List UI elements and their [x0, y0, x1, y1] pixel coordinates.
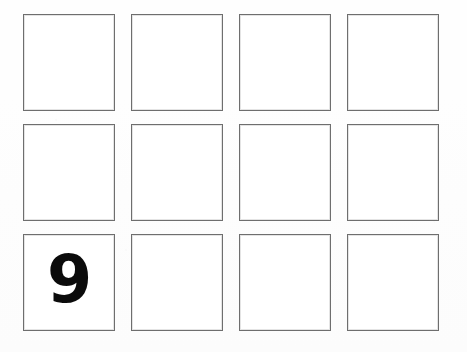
grid-cell-r1c3[interactable]: [239, 14, 331, 111]
grid-cell-r1c1[interactable]: [23, 14, 115, 111]
grid-cell-r2c3[interactable]: [239, 124, 331, 221]
grid-cell-r3c2[interactable]: [131, 234, 223, 331]
worksheet-page: 9: [0, 0, 467, 352]
grid-cell-r1c2[interactable]: [131, 14, 223, 111]
grid-cell-r1c4[interactable]: [347, 14, 439, 111]
grid-cell-r3c4[interactable]: [347, 234, 439, 331]
grid-cell-r3c3[interactable]: [239, 234, 331, 331]
grid-cell-r2c1[interactable]: [23, 124, 115, 221]
number-grid: 9: [23, 14, 439, 331]
grid-cell-r3c1[interactable]: 9: [23, 234, 115, 331]
grid-cell-r2c4[interactable]: [347, 124, 439, 221]
grid-cell-value: 9: [47, 247, 91, 312]
grid-cell-r2c2[interactable]: [131, 124, 223, 221]
